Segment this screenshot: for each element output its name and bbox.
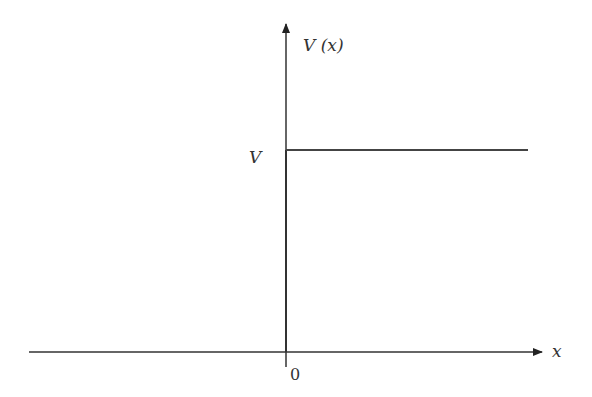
step-level-label: V <box>249 147 263 167</box>
x-axis-label: x <box>552 341 562 361</box>
origin-label: 0 <box>290 365 300 384</box>
step-potential-diagram: V (x) V 0 x <box>0 0 592 397</box>
y-axis-label: V (x) <box>303 35 344 55</box>
